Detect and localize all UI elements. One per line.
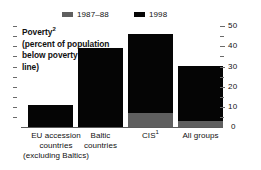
y-axis-label-30: 30 xyxy=(228,63,237,71)
left-tick xyxy=(13,77,17,78)
legend-label-1998: 1998 xyxy=(149,10,167,19)
left-tick xyxy=(13,26,17,27)
y-axis-label-40: 40 xyxy=(228,42,237,50)
category-label-cis: CIS1 xyxy=(126,131,175,141)
y-axis-label-0: 0 xyxy=(231,123,236,131)
left-tick xyxy=(13,107,17,108)
left-tick xyxy=(13,46,17,47)
category-label-baltic: Baltic countries xyxy=(76,131,125,151)
cis-footnote-marker-1: 1 xyxy=(156,129,159,135)
right-tick-30 xyxy=(220,67,225,68)
bar-all-groups xyxy=(178,66,223,128)
bar-segment-1998 xyxy=(78,48,123,128)
legend-swatch-1998 xyxy=(134,12,145,17)
bar-cis xyxy=(128,34,173,128)
plot-area xyxy=(21,26,217,128)
legend-item-1998: 1998 xyxy=(134,10,167,19)
right-tick-45 xyxy=(220,36,224,37)
right-tick-50 xyxy=(220,26,225,27)
left-tick xyxy=(13,117,17,118)
bar-segment-1987-88 xyxy=(128,113,173,128)
right-tick-10 xyxy=(220,107,225,108)
left-tick xyxy=(13,56,17,57)
right-tick-20 xyxy=(220,87,225,88)
right-tick-25 xyxy=(220,77,224,78)
right-tick-40 xyxy=(220,46,225,47)
bar-eu-accession xyxy=(28,105,73,128)
category-label-all-groups: All groups xyxy=(174,131,227,141)
legend-label-1987-88: 1987–88 xyxy=(77,10,109,19)
left-tick xyxy=(13,67,17,68)
left-tick xyxy=(13,87,17,88)
chart-legend: 1987–88 1998 xyxy=(0,8,261,22)
left-tick xyxy=(13,36,17,37)
bar-baltic-countries xyxy=(78,48,123,128)
y-axis-label-50: 50 xyxy=(228,22,237,30)
x-axis-category-labels: EU accession countries (excluding Baltic… xyxy=(21,131,220,170)
y-axis-label-20: 20 xyxy=(228,83,237,91)
legend-item-1987-88: 1987–88 xyxy=(62,10,109,19)
right-tick-15 xyxy=(220,97,224,98)
x-axis-line xyxy=(21,127,220,128)
y-axis-label-10: 10 xyxy=(228,103,237,111)
poverty-bar-chart: 1987–88 1998 Poverty2 (percent of popula… xyxy=(0,0,261,170)
left-tick xyxy=(13,97,17,98)
right-tick-5 xyxy=(220,117,224,118)
legend-swatch-1987-88 xyxy=(62,12,73,17)
right-tick-35 xyxy=(220,56,224,57)
bar-segment-1998 xyxy=(178,66,223,128)
bar-segment-1998 xyxy=(28,105,73,128)
